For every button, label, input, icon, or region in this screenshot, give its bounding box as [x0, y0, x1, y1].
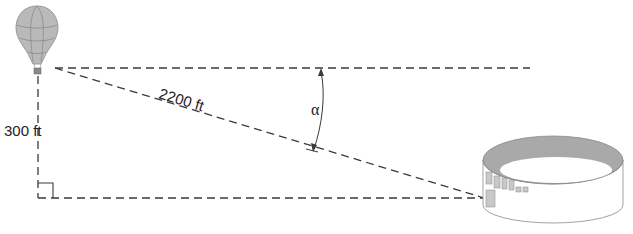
hot-air-balloon-icon	[16, 6, 58, 74]
hypotenuse-line	[55, 68, 484, 198]
hypotenuse-distance-label: 2200 ft	[157, 85, 207, 115]
angle-label: α	[311, 101, 320, 118]
stadium-icon	[483, 136, 623, 223]
vertical-distance-label: 300 ft	[4, 122, 42, 139]
diagram-canvas: 300 ft 2200 ft α	[0, 0, 633, 234]
right-angle-marker	[38, 183, 53, 198]
